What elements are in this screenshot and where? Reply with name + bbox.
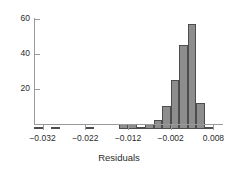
y-axis-line	[34, 18, 35, 125]
x-axis-title: Residuals	[0, 152, 238, 163]
histogram-bar	[179, 45, 188, 129]
y-axis-tick	[34, 19, 40, 20]
x-axis-tick-label: −0.002	[148, 133, 194, 143]
histogram-bar	[162, 106, 171, 129]
y-axis-tick-label: 20	[4, 84, 30, 93]
histogram-figure: 204060 −0.032−0.022−0.012−0.0020.008 Res…	[0, 0, 238, 177]
x-axis-tick	[171, 124, 172, 130]
plot-area	[34, 14, 222, 124]
x-axis-tick-label: −0.012	[105, 133, 151, 143]
x-axis-tick-label: −0.032	[20, 133, 66, 143]
bar-series	[34, 19, 222, 124]
y-axis-tick	[34, 89, 40, 90]
histogram-bar	[85, 127, 94, 130]
x-axis-tick	[85, 124, 86, 130]
y-axis-tick-label: 40	[4, 49, 30, 58]
y-axis-tick-label: 60	[4, 14, 30, 23]
x-axis-tick	[213, 124, 214, 130]
x-axis-tick	[128, 124, 129, 130]
x-axis-tick	[43, 124, 44, 130]
y-axis-tick	[34, 54, 40, 55]
histogram-bar	[205, 127, 214, 130]
histogram-bar	[196, 103, 205, 129]
histogram-bar	[188, 24, 197, 129]
x-axis-tick-label: −0.022	[62, 133, 108, 143]
x-axis-tick-label: 0.008	[190, 133, 236, 143]
histogram-bar	[171, 80, 180, 129]
histogram-bar	[137, 127, 146, 130]
histogram-bar	[34, 127, 43, 130]
histogram-bar	[51, 127, 60, 130]
